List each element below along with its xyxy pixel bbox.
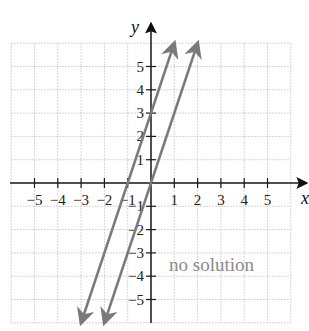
x-tick-label: 1 bbox=[171, 192, 179, 208]
x-tick-label: −5 bbox=[27, 192, 43, 208]
y-tick-label: 4 bbox=[137, 82, 145, 98]
x-axis-label: x bbox=[300, 188, 309, 208]
y-axis-label: y bbox=[129, 17, 139, 37]
x-tick-label: −3 bbox=[73, 192, 89, 208]
y-tick-label: −4 bbox=[128, 268, 144, 284]
x-tick-label: 2 bbox=[194, 192, 202, 208]
graph: −5−4−3−2−112345−5−4−3−2−112345 x y no so… bbox=[0, 0, 309, 331]
y-tick-label: −5 bbox=[128, 292, 144, 308]
x-tick-label: 5 bbox=[264, 192, 272, 208]
y-tick-label: 3 bbox=[137, 105, 145, 121]
x-tick-label: −4 bbox=[50, 192, 66, 208]
axes bbox=[10, 24, 306, 323]
no-solution-annotation: no solution bbox=[169, 254, 254, 275]
x-tick-label: −2 bbox=[96, 192, 112, 208]
y-tick-label: 5 bbox=[137, 59, 145, 75]
x-tick-label: 4 bbox=[240, 192, 248, 208]
x-tick-label: 3 bbox=[217, 192, 225, 208]
